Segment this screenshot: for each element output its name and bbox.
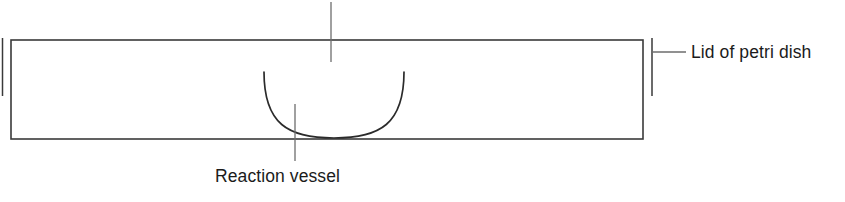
label-lid-of-petri-dish: Lid of petri dish [691,42,811,63]
label-reaction-vessel: Reaction vessel [215,166,340,187]
diagram-canvas: Lid of petri dish Reaction vessel [0,0,845,202]
petri-dish-diagram [0,0,845,202]
petri-dish-lid-rectangle [11,40,643,139]
reaction-vessel-bowl [264,72,404,138]
